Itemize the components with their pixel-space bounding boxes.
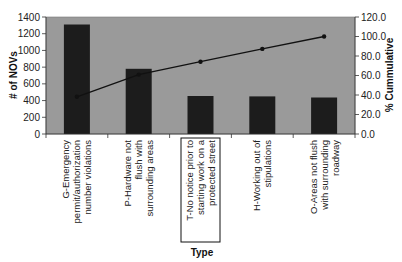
category-label: G-Emergencypermit/authorizationnumber vi…: [60, 140, 93, 224]
right-tick-label: 100.0: [361, 31, 386, 42]
line-marker: [322, 34, 326, 38]
category-label-line: flush with: [133, 140, 144, 180]
category-label: O-Areas not flushwith surroundingroadway: [308, 140, 341, 214]
category-label-line: stipulations: [262, 140, 273, 188]
bar: [311, 98, 337, 135]
category-label-line: T-No notice prior to: [184, 140, 195, 221]
line-marker: [260, 47, 264, 51]
category-label-line: protected street: [206, 140, 217, 206]
category-label-line: H-Working out of: [251, 140, 262, 211]
left-tick-label: 1200: [18, 28, 41, 39]
category-label-line: with surrounding: [319, 140, 330, 211]
right-tick-label: 80.0: [361, 51, 381, 62]
left-tick-label: 400: [23, 95, 40, 106]
left-tick-label: 200: [23, 112, 40, 123]
bar: [249, 96, 275, 134]
left-tick-label: 600: [23, 78, 40, 89]
right-axis-title: % Cummulative: [384, 37, 395, 112]
category-label: T-No notice prior tostarting work on apr…: [181, 138, 220, 242]
left-y-axis: 0200400600800100012001400: [18, 12, 46, 140]
left-tick-label: 1400: [18, 12, 41, 23]
x-axis-title: Type: [191, 247, 214, 258]
bar: [188, 96, 214, 134]
right-tick-label: 120.0: [361, 12, 386, 23]
bar: [64, 25, 90, 135]
category-label: P-Hardware notflush withsurrounding area…: [122, 140, 155, 217]
bar: [126, 69, 152, 134]
left-tick-label: 0: [34, 129, 40, 140]
left-axis-title: # of NOVs: [8, 51, 19, 99]
right-tick-label: 0.0: [361, 129, 375, 140]
line-marker: [198, 60, 202, 64]
category-label-line: O-Areas not flush: [308, 140, 319, 214]
category-label-line: permit/authorization: [71, 140, 82, 223]
right-tick-label: 20.0: [361, 109, 381, 120]
pareto-chart: 0200400600800100012001400 0.020.040.060.…: [0, 0, 402, 262]
right-tick-label: 40.0: [361, 90, 381, 101]
left-tick-label: 800: [23, 62, 40, 73]
line-marker: [75, 95, 79, 99]
category-label-line: number violations: [82, 140, 93, 215]
category-label-line: roadway: [330, 140, 341, 176]
category-label-line: starting work on a: [195, 139, 206, 215]
line-marker: [137, 72, 141, 76]
category-label-line: P-Hardware not: [122, 140, 133, 207]
x-axis: G-Emergencypermit/authorizationnumber vi…: [46, 134, 355, 242]
category-label: H-Working out ofstipulations: [251, 140, 273, 211]
right-y-axis: 0.020.040.060.080.0100.0120.0: [355, 12, 386, 140]
category-label-line: surrounding areas: [144, 140, 155, 217]
category-label-line: G-Emergency: [60, 140, 71, 199]
right-tick-label: 60.0: [361, 70, 381, 81]
left-tick-label: 1000: [18, 45, 41, 56]
